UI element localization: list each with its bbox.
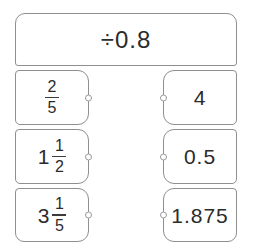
whole-number: 1: [38, 146, 50, 167]
rule-tile: ÷0.8: [15, 13, 237, 66]
fraction-value: 3 1 5: [38, 196, 67, 234]
answer-tile-1-875[interactable]: 1.875: [163, 188, 237, 242]
answer-tile-0-5[interactable]: 0.5: [163, 129, 237, 184]
connector-dot[interactable]: [160, 153, 167, 160]
answer-value: 0.5: [184, 146, 216, 167]
fraction-value: 1 1 2: [38, 138, 67, 176]
fraction-bar: [45, 97, 59, 99]
fraction-tile-2-5[interactable]: 2 5: [15, 70, 89, 125]
answer-value: 4: [194, 87, 207, 108]
connector-dot[interactable]: [85, 153, 92, 160]
connector-dot[interactable]: [160, 212, 167, 219]
connector-dot[interactable]: [85, 212, 92, 219]
fraction-tile-3-1-5[interactable]: 3 1 5: [15, 188, 89, 242]
rule-label: ÷0.8: [101, 28, 152, 52]
numerator: 2: [46, 79, 59, 95]
answer-tile-4[interactable]: 4: [163, 70, 237, 125]
fraction: 1 2: [52, 138, 66, 176]
denominator: 5: [53, 218, 66, 234]
whole-number: 3: [38, 205, 50, 226]
numerator: 1: [53, 138, 66, 154]
matching-exercise: ÷0.8 2 5 1 1 2 3 1: [0, 0, 253, 251]
connector-dot[interactable]: [85, 94, 92, 101]
answer-value: 1.875: [171, 205, 229, 226]
denominator: 5: [46, 100, 59, 116]
fraction: 1 5: [52, 196, 66, 234]
fraction-tile-1-1-2[interactable]: 1 1 2: [15, 129, 89, 184]
fraction: 2 5: [45, 79, 59, 117]
numerator: 1: [53, 196, 66, 212]
fraction-value: 2 5: [45, 79, 59, 117]
fraction-bar: [52, 156, 66, 158]
fraction-bar: [52, 214, 66, 216]
connector-dot[interactable]: [160, 94, 167, 101]
denominator: 2: [53, 159, 66, 175]
